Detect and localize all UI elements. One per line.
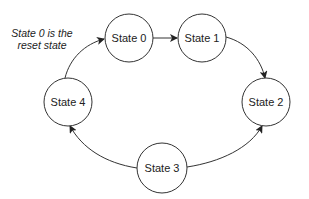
state-0-label: State 0 xyxy=(112,32,147,44)
reset-note-line2: reset state xyxy=(17,39,66,51)
state-1-node[interactable]: State 1 xyxy=(178,14,226,62)
edge-state3-to-state4 xyxy=(70,126,137,168)
edge-state3-to-state2 xyxy=(187,126,262,167)
edge-state4-to-state0 xyxy=(65,39,104,78)
edge-state1-to-state2 xyxy=(226,37,265,78)
state-2-node[interactable]: State 2 xyxy=(242,78,290,126)
reset-note-line1: State 0 is the xyxy=(11,27,72,39)
state-3-label: State 3 xyxy=(145,162,180,174)
state-2-label: State 2 xyxy=(249,96,284,108)
state-diagram: State 0 State 1 State 2 State 3 State 4 … xyxy=(0,0,309,199)
state-0-node[interactable]: State 0 xyxy=(105,14,153,62)
state-3-node[interactable]: State 3 xyxy=(137,143,187,193)
state-4-node[interactable]: State 4 xyxy=(44,78,92,126)
state-4-label: State 4 xyxy=(51,96,86,108)
state-1-label: State 1 xyxy=(185,32,220,44)
